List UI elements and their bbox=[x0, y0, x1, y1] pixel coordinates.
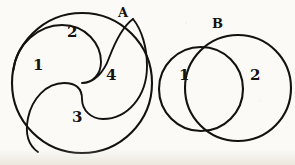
figure-b-region-label-2: 2 bbox=[250, 68, 260, 83]
figure-b-group bbox=[159, 35, 291, 141]
figure-b-region-label-1: 1 bbox=[179, 68, 189, 83]
figure-b-label: B bbox=[212, 17, 223, 30]
figure-a-group bbox=[12, 13, 152, 153]
figure-a-region-label-1: 1 bbox=[33, 58, 43, 73]
figure-a-divider-lower bbox=[27, 19, 147, 152]
figure-a-region-label-4: 4 bbox=[106, 68, 116, 83]
figure-b-circle-small bbox=[159, 47, 243, 131]
figure-a-region-label-3: 3 bbox=[72, 110, 82, 125]
figure-a-region-label-2: 2 bbox=[67, 25, 77, 40]
figure-a-label: A bbox=[118, 6, 128, 19]
figure-b-circle-large bbox=[185, 35, 291, 141]
